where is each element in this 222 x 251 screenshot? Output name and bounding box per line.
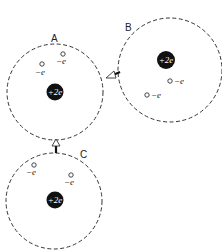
- atom-b: B +2e −e −e: [118, 18, 222, 122]
- orbit-b: [118, 18, 222, 122]
- electron-a1: [40, 62, 44, 66]
- atom-c-label: C: [80, 149, 87, 160]
- atom-collision-diagram: A +2e −e −e B +2e −e −e C +2e −e −e: [0, 0, 222, 251]
- nucleus-a-charge: +2e: [48, 87, 63, 97]
- electron-b2-label: −e: [151, 90, 161, 100]
- nucleus-c-charge: +2e: [48, 195, 63, 205]
- arrow-c-to-a: [52, 139, 60, 153]
- electron-b2: [145, 93, 149, 97]
- electron-b1-label: −e: [174, 76, 184, 86]
- electron-c1-label: −e: [26, 167, 36, 177]
- atom-a-label: A: [51, 33, 58, 44]
- atom-a: A +2e −e −e: [7, 33, 103, 140]
- atom-c: C +2e −e −e: [6, 149, 102, 249]
- electron-a2-label: −e: [56, 56, 66, 66]
- electron-c2-label: −e: [64, 177, 74, 187]
- atom-b-label: B: [125, 22, 132, 33]
- electron-a1-label: −e: [35, 67, 45, 77]
- electron-b1: [168, 79, 172, 83]
- nucleus-b-charge: +2e: [159, 55, 174, 65]
